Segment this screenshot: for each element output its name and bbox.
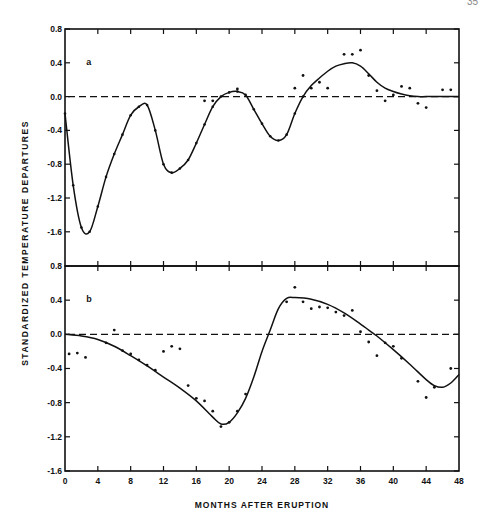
observed-point [146, 364, 149, 367]
observed-point [84, 356, 87, 359]
observed-point [392, 345, 395, 348]
y-tick-label: -1.2 [47, 432, 62, 442]
y-tick-label: -0.4 [47, 125, 62, 135]
observed-point [343, 53, 346, 56]
observed-point [408, 87, 411, 90]
observed-point [400, 357, 403, 360]
y-tick-label: 0.8 [50, 24, 62, 34]
y-tick-label: 0.4 [50, 58, 62, 68]
observed-point [351, 309, 354, 312]
panel-label: a [86, 57, 92, 67]
x-tick-label: 48 [454, 476, 464, 486]
curve-marker [146, 104, 149, 107]
observed-point [113, 329, 116, 332]
curve-marker [269, 135, 272, 138]
observed-point [441, 88, 444, 91]
curve-marker [105, 176, 108, 179]
x-tick-label: 0 [63, 476, 68, 486]
observed-point [376, 354, 379, 357]
observed-point [367, 74, 370, 77]
observed-point [293, 87, 296, 90]
observed-point [129, 353, 132, 356]
curve-marker [220, 95, 223, 98]
y-tick-label: -1.6 [47, 466, 62, 476]
observed-point [392, 94, 395, 97]
observed-point [367, 341, 370, 344]
observed-point [384, 341, 387, 344]
observed-point [334, 311, 337, 314]
curve-marker [97, 205, 100, 208]
fitted-curve-b [65, 297, 459, 424]
observed-point [425, 396, 428, 399]
x-tick-label: 28 [290, 476, 300, 486]
y-tick-label: 0.0 [50, 92, 62, 102]
curve-marker [170, 171, 173, 174]
curve-marker [211, 105, 214, 108]
observed-point [76, 352, 79, 355]
x-tick-label: 24 [257, 476, 267, 486]
observed-point [433, 386, 436, 389]
observed-point [384, 99, 387, 102]
curve-marker [244, 94, 247, 97]
observed-point [244, 393, 247, 396]
observed-point [228, 421, 231, 424]
observed-point [170, 345, 173, 348]
y-tick-label: 0.8 [50, 261, 62, 271]
observed-point [137, 359, 140, 362]
curve-marker [261, 122, 264, 125]
curve-marker [277, 139, 280, 142]
y-axis-label: STANDARDIZED TEMPERATURE DEPARTURES [20, 120, 30, 366]
y-tick-label: 0.4 [50, 295, 62, 305]
y-tick-label: -1.2 [47, 193, 62, 203]
curve-marker [154, 129, 157, 132]
observed-point [236, 88, 239, 91]
observed-point [310, 87, 313, 90]
y-tick-label: 0.0 [50, 329, 62, 339]
curve-marker [80, 226, 83, 229]
observed-point [187, 384, 190, 387]
x-axis-label: MONTHS AFTER ERUPTION [195, 500, 330, 510]
observed-point [121, 349, 124, 352]
observed-point [318, 306, 321, 309]
observed-point [105, 341, 108, 344]
observed-point [449, 88, 452, 91]
observed-point [211, 99, 214, 102]
observed-point [449, 367, 452, 370]
curve-marker [285, 133, 288, 136]
curve-marker [64, 112, 67, 115]
observed-point [285, 300, 288, 303]
fitted-curve-a [65, 63, 459, 234]
curve-marker [236, 90, 239, 93]
observed-point [302, 74, 305, 77]
observed-point [302, 300, 305, 303]
observed-point [400, 85, 403, 88]
observed-point [425, 106, 428, 109]
curve-marker [195, 142, 198, 145]
observed-point [211, 410, 214, 413]
observed-point [417, 380, 420, 383]
y-tick-label: -0.8 [47, 398, 62, 408]
panel-frame-b [65, 266, 459, 471]
observed-point [326, 87, 329, 90]
observed-point [195, 397, 198, 400]
x-tick-label: 8 [128, 476, 133, 486]
curve-marker [88, 231, 91, 234]
curve-marker [179, 167, 182, 170]
curve-marker [302, 95, 305, 98]
observed-point [351, 53, 354, 56]
observed-point [68, 353, 71, 356]
x-tick-label: 32 [323, 476, 333, 486]
panel-frame-a [65, 29, 459, 266]
observed-point [154, 369, 157, 372]
observed-point [359, 49, 362, 52]
curve-marker [121, 133, 124, 136]
curve-marker [228, 91, 231, 94]
observed-point [203, 99, 206, 102]
observed-point [318, 81, 321, 84]
y-tick-label: -0.8 [47, 159, 62, 169]
x-tick-label: 16 [192, 476, 202, 486]
observed-point [359, 330, 362, 333]
curve-marker [203, 123, 206, 126]
observed-point [310, 307, 313, 310]
observed-point [162, 350, 165, 353]
